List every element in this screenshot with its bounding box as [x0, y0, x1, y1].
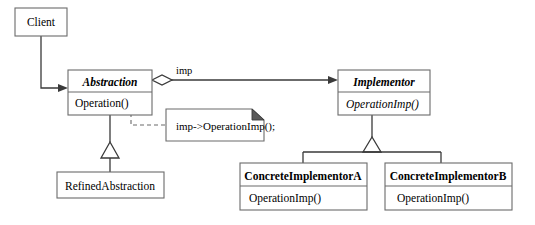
uml-canvas: Client Abstraction Operation() RefinedAb… [0, 0, 535, 225]
aggregation-label-imp: imp [176, 65, 192, 76]
implementor-class-name: Implementor [352, 76, 415, 89]
abstraction-class-name: Abstraction [82, 76, 138, 88]
connector-abstraction-to-implementor [152, 75, 338, 85]
connector-implementor-generalization [303, 115, 441, 163]
connector-refined-generalization [101, 115, 119, 172]
refined-abstraction-class-name: RefinedAbstraction [65, 180, 155, 192]
concrete-implementor-a-operation: OperationImp() [249, 192, 321, 205]
note-text: imp->OperationImp(); [176, 120, 275, 133]
client-class-name: Client [27, 16, 56, 28]
concrete-implementor-a-class-name: ConcreteImplementorA [244, 170, 362, 183]
concrete-implementor-b-class-name: ConcreteImplementorB [390, 170, 507, 183]
implementor-operation: OperationImp() [346, 98, 419, 111]
uml-bridge-diagram: Client Abstraction Operation() RefinedAb… [0, 0, 535, 225]
concrete-implementor-b-operation: OperationImp() [397, 192, 469, 205]
abstraction-operation: Operation() [75, 97, 129, 110]
connector-client-to-abstraction [41, 36, 68, 92]
